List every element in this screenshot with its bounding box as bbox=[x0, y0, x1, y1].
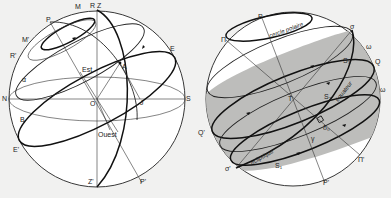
label-north: N bbox=[2, 95, 7, 102]
label-nadir: Z' bbox=[88, 178, 94, 185]
label-pi-prime: Π' bbox=[358, 156, 364, 163]
label-s1: S₁ bbox=[275, 162, 283, 169]
label-sigma-prime: σ' bbox=[225, 165, 231, 172]
label-center-o: O bbox=[90, 100, 96, 107]
label-omega-2: ω bbox=[380, 86, 386, 93]
celestial-spheres-diagram: R Z M P M' R' E Est A α N S O J B Ouest … bbox=[0, 0, 391, 198]
label-sigma: σ bbox=[350, 23, 355, 30]
label-center-t: T bbox=[288, 95, 293, 102]
label-pole-right: P bbox=[258, 13, 263, 20]
figure-canvas: R Z M P M' R' E Est A α N S O J B Ouest … bbox=[0, 0, 391, 198]
point-a bbox=[119, 62, 122, 65]
label-s0: δ₀ bbox=[323, 124, 330, 131]
label-pole-prime: P' bbox=[140, 178, 146, 185]
label-a: A bbox=[122, 63, 127, 70]
label-omega: ω bbox=[366, 43, 372, 50]
label-q-prime: Q' bbox=[198, 129, 205, 137]
label-r: R bbox=[90, 2, 95, 9]
label-pole: P bbox=[46, 16, 51, 23]
label-east: Est bbox=[82, 66, 92, 73]
label-south: S bbox=[186, 95, 191, 102]
label-j: J bbox=[140, 99, 144, 106]
label-pi: Π bbox=[221, 36, 226, 43]
left-sphere: R Z M P M' R' E Est A α N S O J B Ouest … bbox=[2, 2, 191, 187]
label-west: Ouest bbox=[98, 131, 117, 138]
right-sphere: P cercle polaire Π σ ω S₃ Q ω T S₂ équat… bbox=[198, 7, 390, 186]
label-m: M bbox=[75, 3, 81, 10]
label-q: Q bbox=[375, 58, 381, 66]
label-gamma: γ bbox=[311, 135, 315, 143]
label-alpha: α bbox=[22, 76, 26, 83]
label-pole-prime-right: P' bbox=[323, 179, 329, 186]
label-e-prime: E' bbox=[13, 146, 19, 153]
label-zenith: Z bbox=[97, 2, 102, 9]
label-m-prime: M' bbox=[22, 36, 29, 43]
label-r-prime: R' bbox=[10, 52, 16, 59]
label-s2: S₂ bbox=[324, 93, 332, 100]
label-s3: S₃ bbox=[343, 57, 351, 64]
label-b: B bbox=[20, 116, 25, 123]
label-e: E bbox=[170, 45, 175, 52]
